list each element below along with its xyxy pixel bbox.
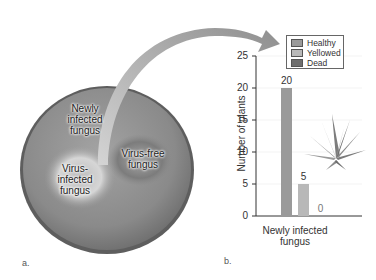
y-ticks bbox=[252, 56, 256, 216]
legend-swatch-yellowed bbox=[291, 49, 303, 57]
legend-item-dead: Dead bbox=[291, 58, 327, 67]
x-label-line: Newly infected bbox=[250, 225, 340, 236]
legend-swatch-healthy bbox=[291, 39, 303, 47]
x-axis-category-label: Newly infected fungus bbox=[250, 225, 340, 247]
bar-yellowed bbox=[298, 184, 309, 216]
bar-healthy bbox=[281, 88, 292, 216]
legend-swatch-dead bbox=[291, 59, 303, 67]
bar-value-dead: 0 bbox=[311, 203, 331, 214]
y-tick-label: 25 bbox=[232, 50, 248, 61]
gridlines bbox=[256, 56, 362, 184]
legend-item-healthy: Healthy bbox=[291, 38, 336, 47]
legend-label: Dead bbox=[307, 58, 327, 68]
legend-label: Healthy bbox=[307, 38, 336, 48]
legend-label: Yellowed bbox=[307, 48, 341, 58]
y-tick-label: 0 bbox=[232, 210, 248, 221]
chart-legend: Healthy Yellowed Dead bbox=[286, 35, 344, 69]
y-tick-label: 5 bbox=[232, 178, 248, 189]
plant-icon bbox=[304, 114, 366, 170]
bar-value-yellowed: 5 bbox=[294, 171, 314, 182]
bar-value-healthy: 20 bbox=[277, 75, 297, 86]
y-axis-label: Number of plants bbox=[236, 89, 247, 179]
legend-item-yellowed: Yellowed bbox=[291, 48, 341, 57]
x-label-line: fungus bbox=[250, 236, 340, 247]
